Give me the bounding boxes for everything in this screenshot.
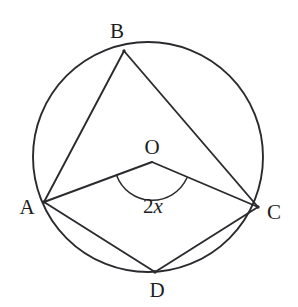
point-label-d: D	[149, 280, 164, 301]
segment-dc	[155, 207, 258, 272]
point-label-b: B	[110, 21, 124, 42]
segment-ab	[44, 51, 124, 202]
segment-bc	[124, 51, 258, 207]
angle-label-variable: x	[154, 194, 163, 218]
vertex-dot-a	[42, 200, 45, 203]
point-label-a: A	[19, 197, 34, 218]
vertex-dot-b	[122, 49, 125, 52]
angle-label-number: 2	[143, 194, 154, 218]
point-label-c: C	[267, 202, 281, 223]
segment-oc	[152, 162, 258, 207]
geometry-figure: B O A C D 2x	[0, 0, 298, 307]
angle-label-2x: 2x	[143, 196, 163, 217]
point-label-o: O	[144, 137, 159, 158]
vertex-dot-d	[153, 270, 156, 273]
vertex-dot-c	[256, 205, 259, 208]
